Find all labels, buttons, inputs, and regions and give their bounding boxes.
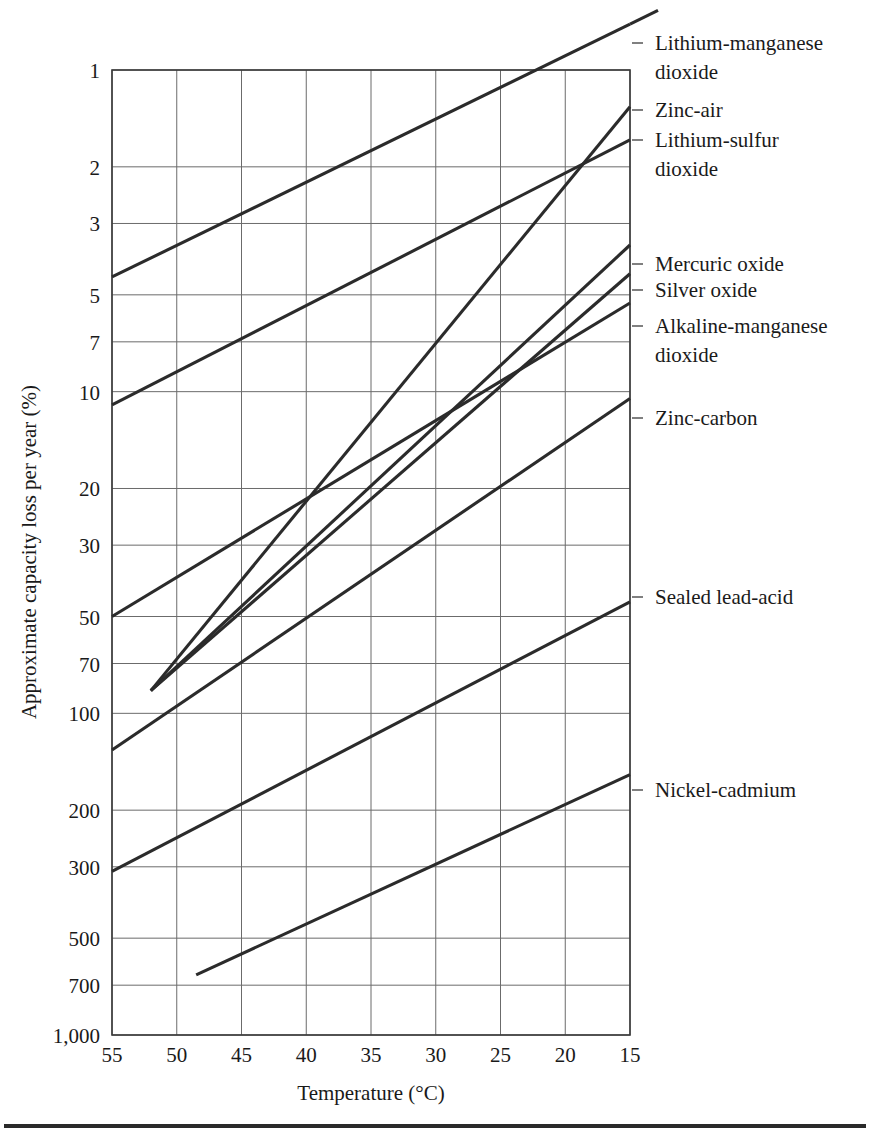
x-axis-title: Temperature (°C) (297, 1081, 444, 1105)
y-tick-label-200: 200 (69, 799, 101, 823)
x-tick-label-20: 20 (555, 1043, 576, 1067)
y-tick-label-1: 1 (90, 59, 101, 83)
y-tick-label-30: 30 (79, 534, 100, 558)
series-label-silver-oxide: Silver oxide (655, 278, 757, 302)
series-label-zinc-carbon: Zinc-carbon (655, 406, 758, 430)
series-label-zinc-air: Zinc-air (655, 98, 723, 122)
x-tick-label-40: 40 (296, 1043, 317, 1067)
capacity-loss-chart: Lithium-manganesedioxideZinc-airLithium-… (0, 0, 870, 1139)
figure-container: Lithium-manganesedioxideZinc-airLithium-… (0, 0, 870, 1139)
y-tick-label-3: 3 (90, 212, 101, 236)
y-tick-label-2: 2 (90, 156, 101, 180)
series-label-nickel-cadmium: Nickel-cadmium (655, 778, 796, 802)
x-axis-tick-labels: 555045403530252015 (102, 1043, 641, 1067)
y-tick-label-50: 50 (79, 606, 100, 630)
y-tick-label-5: 5 (90, 284, 101, 308)
series-label-mercuric-oxide: Mercuric oxide (655, 252, 784, 276)
y-axis-title: Approximate capacity loss per year (%) (17, 385, 41, 719)
chart-background (0, 0, 870, 1139)
x-tick-label-55: 55 (102, 1043, 123, 1067)
y-tick-label-300: 300 (69, 856, 101, 880)
y-tick-label-1,000: 1,000 (53, 1024, 100, 1048)
x-tick-label-15: 15 (620, 1043, 641, 1067)
x-tick-label-30: 30 (425, 1043, 446, 1067)
y-tick-label-20: 20 (79, 477, 100, 501)
y-tick-label-700: 700 (69, 974, 101, 998)
x-tick-label-50: 50 (166, 1043, 187, 1067)
x-tick-label-25: 25 (490, 1043, 511, 1067)
series-label-sealed-lead-acid: Sealed lead-acid (655, 585, 794, 609)
y-tick-label-100: 100 (69, 702, 101, 726)
y-tick-label-7: 7 (90, 331, 101, 355)
y-tick-label-70: 70 (79, 653, 100, 677)
y-tick-label-500: 500 (69, 927, 101, 951)
x-tick-label-45: 45 (231, 1043, 252, 1067)
x-tick-label-35: 35 (361, 1043, 382, 1067)
y-tick-label-10: 10 (79, 381, 100, 405)
